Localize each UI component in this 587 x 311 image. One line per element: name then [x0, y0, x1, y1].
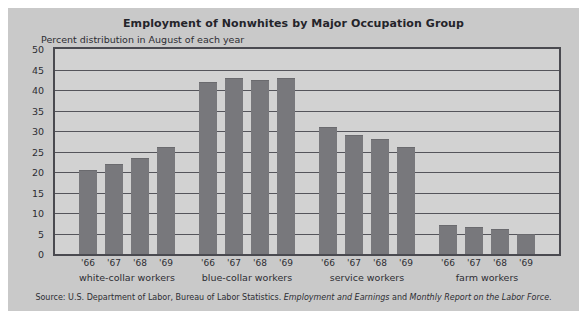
x-axis-year-label: '69 [513, 258, 539, 268]
x-axis-year-label: '68 [247, 258, 273, 268]
chart-title: Employment of Nonwhites by Major Occupat… [8, 17, 579, 30]
chart-subtitle: Percent distribution in August of each y… [41, 34, 244, 45]
x-axis-year-label: '68 [127, 258, 153, 268]
y-axis-tick-label: 30 [32, 126, 44, 137]
x-axis-year-label: '66 [435, 258, 461, 268]
source-prefix: Source: U.S. Department of Labor, Bureau… [35, 293, 283, 302]
x-axis-year-label: '69 [273, 258, 299, 268]
bar [105, 164, 123, 254]
source-publication-2: Monthly Report on the Labor Force [410, 293, 549, 302]
bar [491, 229, 509, 254]
bar [277, 78, 295, 254]
x-axis-year-label: '66 [75, 258, 101, 268]
bar-series [55, 49, 559, 254]
bar [439, 225, 457, 254]
bar [397, 147, 415, 254]
x-axis: '66'67'68'69white-collar workers'66'67'6… [53, 258, 561, 292]
y-axis-tick-label: 20 [32, 167, 44, 178]
bar [371, 139, 389, 254]
bar [79, 170, 97, 254]
x-axis-year-label: '66 [195, 258, 221, 268]
bar [131, 158, 149, 254]
x-axis-year-label: '67 [101, 258, 127, 268]
bar [517, 234, 535, 255]
plot-area [53, 47, 561, 256]
y-axis-tick-label: 40 [32, 85, 44, 96]
y-axis-tick-label: 50 [32, 44, 44, 55]
bar [199, 82, 217, 254]
source-note: Source: U.S. Department of Labor, Bureau… [8, 293, 579, 302]
source-suffix: . [549, 293, 552, 302]
bar [465, 227, 483, 254]
y-axis-tick-label: 15 [32, 187, 44, 198]
x-axis-year-label: '67 [341, 258, 367, 268]
x-axis-year-label: '68 [487, 258, 513, 268]
x-axis-year-label: '69 [153, 258, 179, 268]
bar [225, 78, 243, 254]
x-axis-year-label: '68 [367, 258, 393, 268]
bar [319, 127, 337, 254]
y-axis-tick-label: 5 [38, 228, 44, 239]
y-axis-tick-label: 25 [32, 146, 44, 157]
y-axis-tick-label: 45 [32, 64, 44, 75]
x-axis-year-label: '67 [461, 258, 487, 268]
y-axis-tick-label: 35 [32, 105, 44, 116]
x-axis-year-label: '69 [393, 258, 419, 268]
source-publication-1: Employment and Earnings [284, 293, 390, 302]
y-axis-tick-label: 0 [38, 249, 44, 260]
y-axis-tick-label: 10 [32, 208, 44, 219]
x-axis-year-label: '67 [221, 258, 247, 268]
x-axis-year-label: '66 [315, 258, 341, 268]
bar [157, 147, 175, 254]
bar [345, 135, 363, 254]
x-axis-group-label: farm workers [407, 272, 567, 283]
source-middle: and [389, 293, 409, 302]
bar [251, 80, 269, 254]
y-axis: 05101520253035404550 [8, 47, 51, 256]
chart-figure: Employment of Nonwhites by Major Occupat… [8, 8, 579, 311]
